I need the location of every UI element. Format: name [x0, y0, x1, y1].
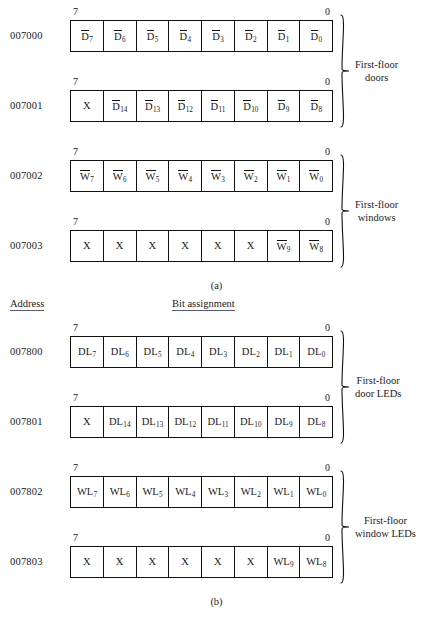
bit-signal: WL3	[208, 487, 228, 498]
bit-cell: D6	[104, 21, 137, 51]
bit-cell: W6	[104, 161, 137, 191]
bit-subscript: 8	[323, 561, 327, 569]
bit-subscript: 5	[156, 176, 160, 184]
bit-signal: D11	[211, 100, 226, 112]
figure-b-led-map: AddressBit assignment00780070DL7DL6DL5DL…	[0, 290, 433, 627]
bit-signal-base: D	[211, 100, 219, 112]
bit-signal: D9	[278, 100, 289, 112]
bit-signal-base: WL	[175, 487, 191, 498]
bit-signal-base: WL	[273, 487, 289, 498]
lsb-index: 0	[325, 392, 330, 403]
bit-signal-base: D	[178, 100, 186, 112]
bit-cell: X	[71, 407, 104, 437]
bit-subscript: 10	[251, 106, 258, 114]
bit-signal: D13	[145, 100, 160, 112]
bit-signal-base: WL	[142, 487, 158, 498]
bit-signal-base: DL	[307, 347, 321, 358]
bit-cell: X	[137, 231, 170, 261]
bit-signal: X	[116, 241, 124, 252]
bit-signal-base: W	[146, 170, 156, 182]
bit-signal: DL0	[307, 347, 325, 358]
bit-signal-base: W	[244, 170, 254, 182]
lsb-index: 0	[325, 216, 330, 227]
bit-signal: WL0	[306, 487, 326, 498]
bit-signal: W3	[211, 170, 225, 182]
bit-cell: WL8	[300, 547, 332, 577]
group-label: First-floor windows	[351, 198, 398, 224]
bit-cell: X	[169, 231, 202, 261]
bit-signal: DL7	[78, 347, 96, 358]
bit-subscript: 8	[318, 106, 322, 114]
bit-subscript: 6	[123, 176, 127, 184]
bit-cell: X	[137, 547, 170, 577]
bit-subscript: 1	[287, 176, 291, 184]
bit-assignment-column-header: Bit assignment	[172, 298, 235, 311]
bit-signal: X	[247, 241, 255, 252]
bit-signal: W9	[277, 240, 291, 252]
bit-signal-base: X	[83, 101, 91, 112]
bit-signal-base: X	[247, 241, 255, 252]
bit-signal: D6	[114, 30, 125, 42]
bit-cell: D7	[71, 21, 104, 51]
bit-signal: DL11	[207, 417, 228, 428]
bit-signal: DL9	[275, 417, 293, 428]
bit-subscript: 4	[187, 36, 191, 44]
lsb-index: 0	[325, 6, 330, 17]
bit-subscript: 9	[289, 421, 293, 429]
bit-cell: W2	[235, 161, 268, 191]
bit-cell: X	[235, 547, 268, 577]
msb-index: 7	[73, 322, 78, 333]
bit-index-markers: 70	[70, 532, 333, 546]
bit-signal-base: D	[81, 30, 89, 42]
bit-signal-base: DL	[207, 417, 221, 428]
bit-subscript: 8	[320, 246, 324, 254]
bit-cell: X	[202, 231, 235, 261]
bit-signal-base: WL	[77, 487, 93, 498]
bit-signal: WL4	[175, 487, 195, 498]
bit-subscript: 0	[320, 176, 324, 184]
bit-cell: D10	[235, 91, 268, 121]
bit-signal-base: D	[278, 100, 286, 112]
bit-signal: DL14	[109, 417, 130, 428]
bit-cell: DL1	[268, 337, 301, 367]
bit-subscript: 7	[90, 176, 94, 184]
register-address: 007001	[10, 100, 43, 111]
bit-signal-base: D	[311, 30, 319, 42]
bit-subscript: 3	[225, 491, 229, 499]
bit-signal-base: X	[83, 557, 91, 568]
bit-cell: D3	[202, 21, 235, 51]
bit-signal: WL9	[273, 557, 293, 568]
bit-subscript: 0	[323, 491, 327, 499]
bit-signal: W2	[244, 170, 258, 182]
bit-signal-base: X	[247, 557, 255, 568]
bit-cell: W9	[268, 231, 301, 261]
bit-signal-base: W	[80, 170, 90, 182]
bit-signal-base: D	[147, 30, 155, 42]
bit-cell: WL3	[202, 477, 235, 507]
bit-cell: DL7	[71, 337, 104, 367]
bit-subscript: 6	[125, 351, 129, 359]
curly-brace-icon	[338, 330, 351, 444]
bit-signal-base: X	[181, 557, 189, 568]
column-headers: AddressBit assignment	[0, 290, 433, 316]
bit-subscript: 9	[286, 106, 290, 114]
bit-signal: D3	[212, 30, 223, 42]
bit-signal: DL4	[176, 347, 194, 358]
bit-signal-base: WL	[306, 557, 322, 568]
msb-index: 7	[73, 6, 78, 17]
bit-cell: WL1	[268, 477, 301, 507]
bit-cell: DL11	[202, 407, 235, 437]
register-address: 007002	[10, 170, 43, 181]
bit-subscript: 7	[92, 351, 96, 359]
bit-index-markers: 70	[70, 322, 333, 336]
bit-cell: DL5	[137, 337, 170, 367]
bit-signal: W8	[309, 240, 323, 252]
bit-signal: DL10	[240, 417, 261, 428]
bit-subscript: 2	[257, 491, 261, 499]
lsb-index: 0	[325, 532, 330, 543]
bit-cell: WL7	[71, 477, 104, 507]
bit-cell: X	[71, 231, 104, 261]
bit-cell: X	[71, 547, 104, 577]
bit-signal: W1	[277, 170, 291, 182]
bit-cell: DL14	[104, 407, 137, 437]
